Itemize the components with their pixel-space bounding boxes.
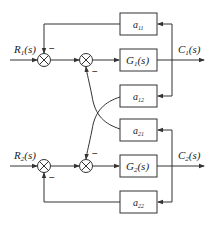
minus-sign-upper-j2: − bbox=[92, 66, 98, 77]
block-label-a12: a12 bbox=[133, 91, 144, 103]
feedback-a22-j1 bbox=[44, 173, 120, 202]
summing-junction-lower-1 bbox=[38, 160, 51, 173]
output-label-c2: C2(s) bbox=[178, 149, 201, 163]
minus-sign-lower-j2: − bbox=[92, 148, 98, 159]
block-label-a21: a21 bbox=[133, 125, 144, 137]
block-label-a11: a11 bbox=[133, 19, 144, 31]
block-diagram: − − − − R1(s) R2(s) C1(s) C2(s) a11 G1(s… bbox=[0, 0, 212, 226]
block-label-g1: G1(s) bbox=[126, 54, 149, 68]
summing-junction-upper-1 bbox=[38, 54, 51, 67]
summing-junction-upper-2 bbox=[80, 54, 93, 67]
minus-sign-upper-j1: − bbox=[49, 43, 55, 54]
input-label-r1: R1(s) bbox=[13, 43, 36, 57]
feedback-a11-j1 bbox=[44, 24, 120, 53]
minus-sign-lower-j1: − bbox=[49, 172, 55, 183]
output-label-c1: C1(s) bbox=[178, 43, 201, 57]
block-a11 bbox=[120, 13, 157, 35]
summing-junction-lower-2 bbox=[80, 160, 93, 173]
block-a22 bbox=[120, 191, 157, 213]
block-label-g2: G2(s) bbox=[126, 160, 149, 174]
block-label-a22: a22 bbox=[133, 197, 144, 209]
block-a12 bbox=[120, 85, 157, 107]
input-label-r2: R2(s) bbox=[13, 149, 36, 163]
block-a21 bbox=[120, 119, 157, 141]
